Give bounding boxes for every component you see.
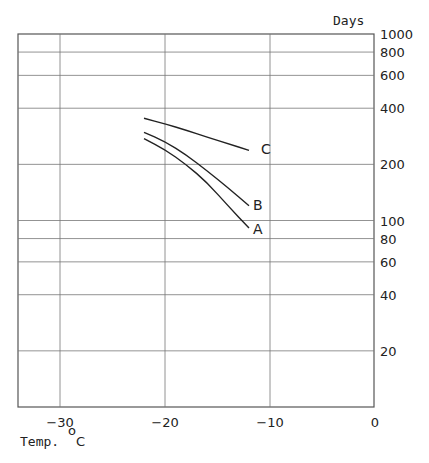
curve-b	[144, 132, 249, 205]
x-tick-label: −10	[256, 415, 283, 430]
y-tick-label: 60	[380, 255, 397, 270]
x-tick-label: 0	[371, 415, 379, 430]
grid	[18, 34, 374, 407]
degree-symbol: o	[68, 423, 76, 438]
y-axis-title: Days	[333, 13, 364, 28]
curve-label-b: B	[253, 197, 263, 213]
chart: 100080060040020010080604020−30−20−100ABC…	[0, 0, 429, 463]
x-tick-label: −20	[151, 415, 178, 430]
curve-a	[144, 139, 249, 229]
curve-label-c: C	[261, 141, 271, 157]
y-tick-label: 200	[380, 157, 405, 172]
x-axis-unit: C	[76, 434, 85, 449]
y-tick-label: 80	[380, 232, 397, 247]
y-tick-label: 100	[380, 214, 405, 229]
y-tick-label: 20	[380, 344, 397, 359]
y-tick-label: 400	[380, 101, 405, 116]
y-tick-label: 1000	[380, 27, 413, 42]
curves	[144, 118, 249, 228]
labels: 100080060040020010080604020−30−20−100ABC	[46, 27, 413, 430]
curve-label-a: A	[253, 221, 263, 237]
x-axis-title: Temp.	[20, 434, 59, 449]
y-tick-label: 40	[380, 288, 397, 303]
y-tick-label: 800	[380, 45, 405, 60]
curve-c	[144, 118, 249, 150]
y-tick-label: 600	[380, 68, 405, 83]
